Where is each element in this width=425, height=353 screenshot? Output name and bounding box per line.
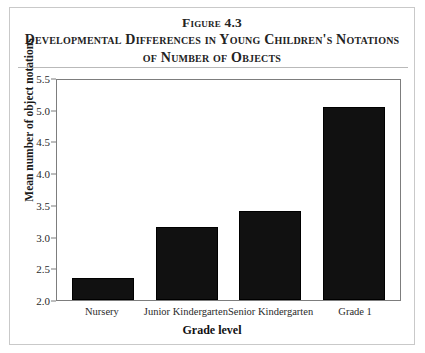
y-tick-label: 3.5: [36, 200, 50, 212]
figure-title-line-1: Developmental Differences in Young Child…: [10, 31, 414, 49]
plot-area: [56, 79, 401, 301]
x-axis-tick-labels: NurseryJunior KindergartenSenior Kinderg…: [56, 306, 401, 317]
bar: [323, 107, 385, 300]
y-tick-label: 2.0: [36, 295, 50, 307]
figure-number: Figure 4.3: [10, 14, 414, 31]
bar-slot: [61, 80, 145, 300]
y-tick-label: 2.5: [36, 263, 50, 275]
x-tick-label: Nursery: [60, 306, 144, 317]
figure-container: Figure 4.3 Developmental Differences in …: [9, 7, 415, 345]
y-tick-label: 5.0: [36, 105, 50, 117]
y-tick-label: 4.5: [36, 136, 50, 148]
x-tick-label: Grade 1: [313, 306, 397, 317]
figure-title: Figure 4.3 Developmental Differences in …: [10, 14, 414, 67]
y-axis-ticks: 5.55.04.54.03.53.02.52.0: [22, 79, 56, 301]
y-tick-label: 3.0: [36, 232, 50, 244]
bar-slot: [312, 80, 396, 300]
bar-series: [57, 80, 400, 300]
bar-slot: [145, 80, 229, 300]
x-tick-label: Senior Kindergarten: [228, 306, 313, 317]
figure-title-line-2: of Number of Objects: [10, 49, 414, 67]
y-tick-label: 4.0: [36, 168, 50, 180]
bar: [72, 278, 134, 300]
bar: [156, 227, 218, 300]
x-axis-title: Grade level: [10, 323, 414, 338]
bar-slot: [229, 80, 313, 300]
bar: [239, 211, 301, 300]
title-divider: [18, 67, 408, 68]
x-tick-label: Junior Kindergarten: [144, 306, 228, 317]
y-tick-label: 5.5: [36, 73, 50, 85]
